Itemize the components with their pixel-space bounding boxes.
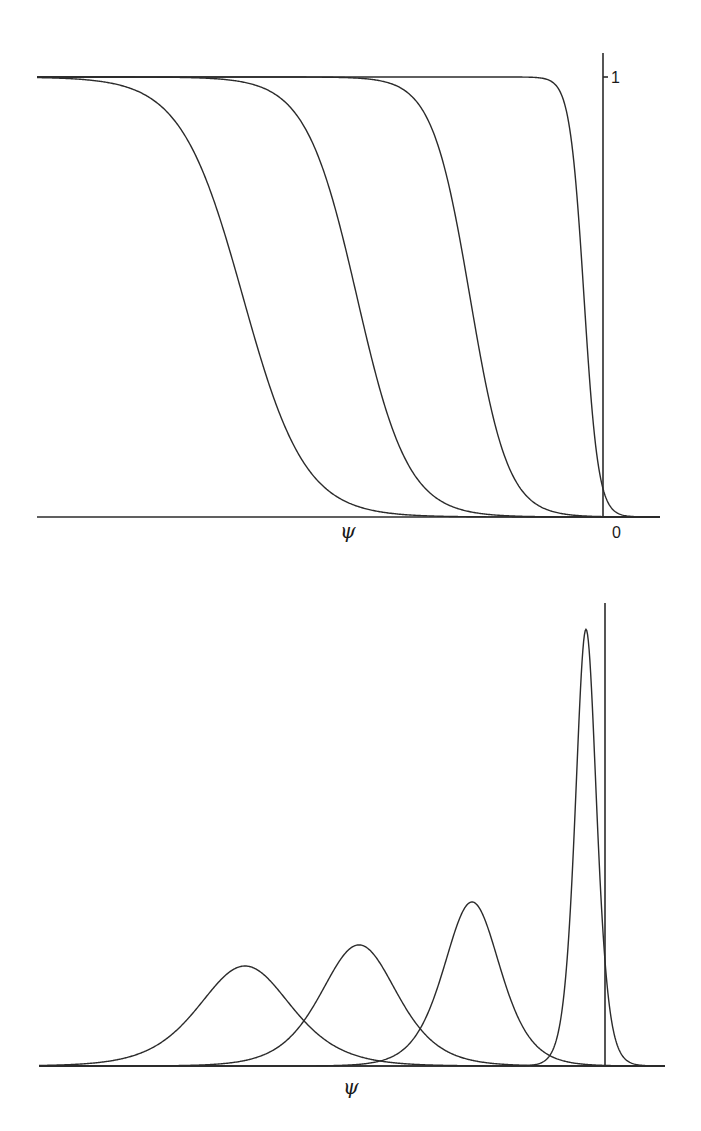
top-x-axis-label: ψ (340, 519, 356, 543)
top-curve-1 (37, 78, 660, 517)
top-curve-4 (37, 77, 660, 517)
top-y-tick-label-1: 1 (611, 69, 620, 86)
bottom-peak-3 (39, 902, 665, 1066)
bottom-peak-1 (39, 966, 665, 1066)
bottom-x-axis-label: ψ (343, 1075, 359, 1099)
bottom-curves (39, 629, 665, 1066)
top-curve-2 (37, 77, 660, 517)
chart-figure: 1 0 ψ ψ (0, 0, 701, 1131)
bottom-peak-2 (39, 945, 665, 1066)
top-curves (37, 77, 660, 517)
top-curve-3 (37, 77, 660, 517)
bottom-peak-4 (39, 629, 665, 1066)
bottom-panel-peak-curves: ψ (39, 603, 665, 1099)
top-panel-step-curves: 1 0 ψ (37, 53, 660, 543)
top-x-tick-label-0: 0 (612, 524, 621, 541)
